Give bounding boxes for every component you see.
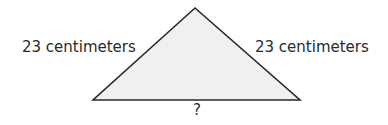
left-side-label: 23 centimeters: [22, 40, 136, 55]
base-label: ?: [193, 103, 201, 118]
diagram-canvas: 23 centimeters 23 centimeters ?: [0, 0, 388, 125]
right-side-label: 23 centimeters: [255, 40, 369, 55]
